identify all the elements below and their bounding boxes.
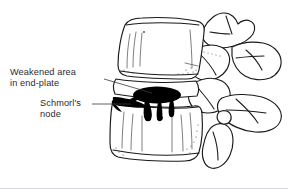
schmorls-node-lesion: [133, 87, 181, 104]
label-weakened-area-line2: in end-plate: [10, 78, 59, 88]
label-weakened-area-line1: Weakened area: [10, 67, 77, 77]
upper-vertebral-body-group: [118, 18, 204, 79]
spine-illustration: Weakened area in end-plate Schmorl's nod…: [0, 0, 288, 189]
schmorls-node-droplet-2: [157, 115, 163, 121]
nutrient-foramen: [143, 31, 145, 33]
articular-nub: [217, 111, 231, 125]
label-schmorls-node-line1: Schmorl's: [40, 98, 81, 108]
schmorls-node-figure: Weakened area in end-plate Schmorl's nod…: [0, 0, 288, 189]
label-schmorls-node-line2: node: [40, 109, 61, 119]
lower-vertebral-body-group: [110, 101, 202, 161]
schmorls-node-droplet: [145, 115, 151, 121]
